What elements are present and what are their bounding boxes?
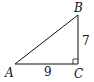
side-label-ac: 9 [44,65,52,79]
triangle-diagram: B A C 9 7 [0,0,94,82]
vertex-label-c: C [74,67,83,81]
side-label-bc: 7 [82,34,90,48]
vertex-label-a: A [4,66,14,80]
triangle-abc [15,15,78,64]
right-angle-marker [73,59,78,64]
vertex-label-b: B [73,1,83,15]
